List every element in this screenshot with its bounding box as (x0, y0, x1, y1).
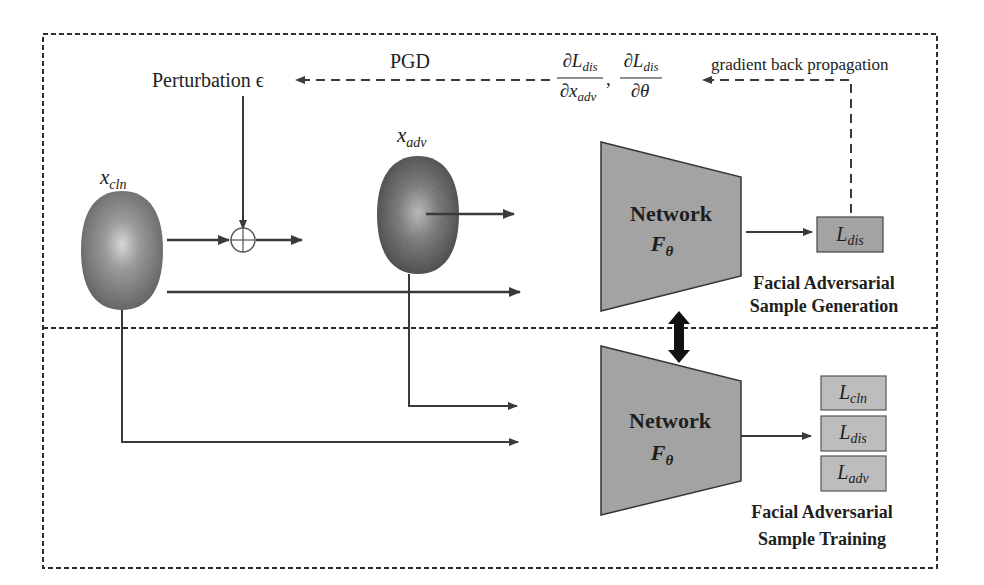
pgd-label: PGD (390, 50, 430, 72)
network-bottom-label: Network (629, 408, 712, 433)
loss-dis-top: Ldis (817, 217, 883, 252)
x-cln-label: xcln (99, 165, 126, 192)
gradient-backprop-label: gradient back propagation (711, 55, 889, 74)
svg-text:∂xadv: ∂xadv (560, 80, 597, 104)
gradient-comma: , (606, 68, 611, 89)
loss-dis: Ldis (821, 416, 886, 451)
add-operator-icon (231, 228, 255, 252)
network-top-label: Network (630, 201, 713, 226)
loss-adv: Ladv (821, 456, 886, 491)
network-top: Network Fθ (601, 142, 741, 311)
shared-weights-double-arrow (668, 311, 690, 363)
bottom-section-title-line2: Sample Training (758, 529, 886, 549)
gradient-fraction-theta: ∂Ldis ∂θ (620, 50, 662, 101)
top-section-title-line1: Facial Adversarial (753, 273, 894, 293)
svg-text:∂θ: ∂θ (631, 80, 650, 101)
svg-text:∂Ldis: ∂Ldis (562, 50, 597, 74)
top-section-title-line2: Sample Generation (750, 296, 899, 316)
adversarial-training-diagram: xcln xadv Perturbation ϵ PGD Network Fθ … (0, 0, 984, 585)
clean-to-network-bottom-arrow (122, 310, 518, 442)
x-adv-label: xadv (396, 123, 427, 150)
clean-face-image (81, 191, 163, 310)
svg-text:∂Ldis: ∂Ldis (623, 50, 658, 74)
network-bottom: Network Fθ (601, 346, 741, 515)
bottom-section-title-line1: Facial Adversarial (751, 502, 892, 522)
perturbation-label: Perturbation ϵ (152, 69, 264, 91)
adv-to-network-bottom-arrow (409, 274, 517, 406)
loss-cln: Lcln (821, 376, 886, 410)
gradient-fraction-x-adv: ∂Ldis ∂xadv (557, 50, 603, 104)
